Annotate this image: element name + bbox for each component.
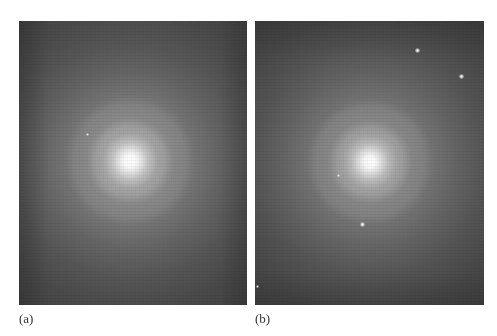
image-noise [19,21,247,305]
star-point [360,222,365,227]
panel-label-a: (a) [19,311,33,326]
star-point [256,285,259,288]
star-point [415,48,420,53]
panel-label-b: (b) [255,311,270,326]
figure: (a) (b) [0,0,497,336]
star-point [459,74,464,79]
image-noise [255,21,484,305]
galaxy-image-panel-b [255,21,484,305]
star-point [86,133,89,136]
galaxy-image-panel-a [19,21,247,305]
star-point [337,174,340,177]
